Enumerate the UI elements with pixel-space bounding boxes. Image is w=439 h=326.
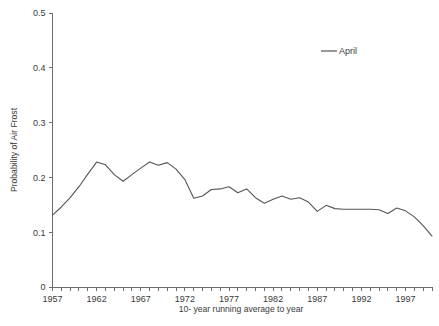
chart-container: 00.10.20.30.40.5 19571962196719721977198… xyxy=(0,0,439,326)
x-tick-label: 1972 xyxy=(175,294,195,304)
x-tick-label: 1992 xyxy=(351,294,371,304)
x-tick-label: 1977 xyxy=(219,294,239,304)
y-tick-label: 0.4 xyxy=(33,63,46,73)
y-tick-label: 0.3 xyxy=(33,118,46,128)
x-axis-ticks: 195719621967197219771982198719921997 xyxy=(42,287,432,304)
x-tick-label: 1967 xyxy=(131,294,151,304)
x-tick-label: 1962 xyxy=(87,294,107,304)
series-paths xyxy=(53,162,433,236)
y-tick-label: 0.5 xyxy=(33,8,46,18)
y-tick-label: 0 xyxy=(40,282,45,292)
y-tick-label: 0.2 xyxy=(33,173,46,183)
x-tick-label: 1982 xyxy=(263,294,283,304)
x-tick-label: 1997 xyxy=(396,294,416,304)
y-tick-label: 0.1 xyxy=(33,228,46,238)
chart-legend: April xyxy=(321,46,357,56)
y-axis-title: Probability of Air Frost xyxy=(9,107,19,192)
x-tick-label: 1987 xyxy=(307,294,327,304)
x-tick-label: 1957 xyxy=(42,294,62,304)
legend-label-april: April xyxy=(339,46,357,56)
x-axis-title: 10- year running average to year xyxy=(179,304,304,314)
y-axis-ticks: 00.10.20.30.40.5 xyxy=(33,8,53,292)
series-line-april xyxy=(53,162,433,236)
line-chart: 00.10.20.30.40.5 19571962196719721977198… xyxy=(0,0,439,326)
